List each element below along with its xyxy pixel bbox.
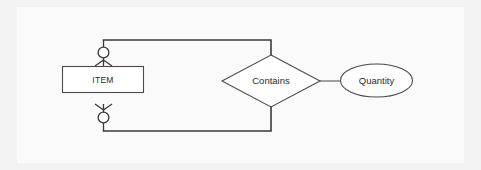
attribute-quantity[interactable]: Quantity (341, 64, 413, 97)
crow-foot-icon (95, 60, 112, 66)
cardinality-bottom-zero-or-many (95, 104, 112, 131)
cardinality-top-zero-or-many (95, 40, 112, 66)
optional-ring-icon (98, 47, 109, 58)
optional-ring-icon (98, 112, 109, 123)
entity-item[interactable]: ITEM (63, 67, 144, 93)
attribute-quantity-label: Quantity (359, 75, 395, 86)
er-diagram-canvas: ITEM Contains Quantity (0, 0, 481, 170)
relationship-contains[interactable]: Contains (222, 55, 320, 107)
entity-item-label: ITEM (92, 75, 114, 85)
connector-item-bottom-to-contains[interactable] (104, 106, 272, 131)
crow-foot-icon (95, 104, 112, 110)
relationship-contains-label: Contains (252, 75, 290, 86)
connector-item-top-to-contains[interactable] (104, 40, 272, 64)
diagram-svg: ITEM Contains Quantity (0, 0, 481, 170)
